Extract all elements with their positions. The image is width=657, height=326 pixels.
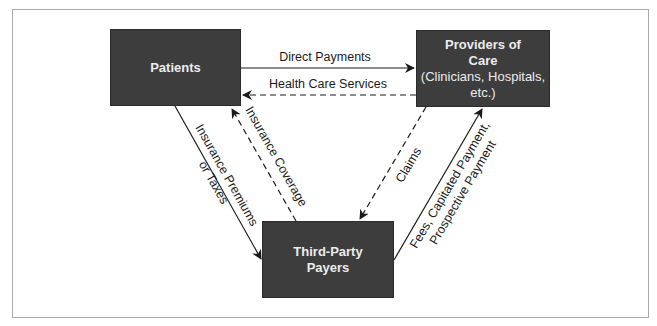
- insurance-coverage-label: Insurance Coverage: [242, 104, 310, 209]
- providers-title-line1: Providers of: [445, 37, 521, 53]
- payers-title-line1: Third-Party: [293, 244, 362, 260]
- third-party-payers-node: Third-Party Payers: [262, 221, 394, 298]
- claims-label: Claims: [393, 145, 424, 185]
- health-care-services-label: Health Care Services: [269, 77, 387, 91]
- providers-subtitle-line2: etc.): [470, 85, 495, 101]
- fees-label: Fees, Capitated Payment,: [407, 119, 492, 251]
- providers-subtitle-line1: (Clinicians, Hospitals,: [421, 69, 545, 85]
- providers-title-line2: Care: [469, 53, 498, 69]
- payers-title-line2: Payers: [307, 260, 350, 276]
- direct-payments-label: Direct Payments: [279, 50, 371, 64]
- providers-node: Providers of Care (Clinicians, Hospitals…: [416, 30, 550, 107]
- patients-label: Patients: [150, 60, 201, 76]
- patients-node: Patients: [110, 29, 241, 106]
